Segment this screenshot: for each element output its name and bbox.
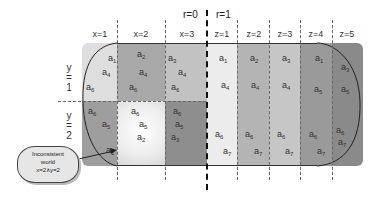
item-x1y2-a6: a6 [88,106,96,117]
header-x1: x=1 [80,29,120,39]
header-z5: z=5 [327,29,367,39]
divider-z3-z4 [300,20,301,180]
item-x2y1-a4: a4 [139,67,147,78]
item-z4-a6: a6 [309,129,317,140]
item-z5-a3: a3 [341,62,349,73]
row-label-y1-val: 1 [62,83,76,93]
item-z4-a1: a1 [315,53,323,64]
item-z2-a6: a6 [245,129,253,140]
item-z1-a6: a6 [215,129,223,140]
item-x2y2-a5: a5 [139,119,147,130]
item-z4-a5: a5 [314,84,322,95]
item-z1-a7: a7 [223,146,231,157]
region-bottom-border [117,165,317,166]
item-x1y1-a4: a4 [102,67,110,78]
item-z2-a7: a7 [254,146,262,157]
item-z3-a6: a6 [277,129,285,140]
item-z3-a7: a7 [285,146,293,157]
item-z5-a6: a6 [336,125,344,136]
item-z3-a4: a4 [282,80,290,91]
inconsistent-world-label: Inconsistent world x=2∧y=2 [17,150,79,174]
row-label-y1: y = 1 [62,63,76,93]
r0-label: r=0 [183,9,198,20]
header-x2: x=2 [121,29,161,39]
item-z5-a7: a7 [338,137,346,148]
item-x2y1-a6: a6 [129,82,137,93]
item-x1y1-a1: a1 [108,53,116,64]
item-x2y1-a2: a2 [137,49,145,60]
item-z3-a3: a3 [282,53,290,64]
item-z1-a4: a4 [221,80,229,91]
divider-z2-z3 [269,20,270,180]
item-x2y2-a6: a6 [131,106,139,117]
r-divider [206,10,208,190]
divider-z1-z2 [237,20,238,180]
item-x3y1-a3: a3 [168,53,176,64]
item-x1y1-a6: a6 [86,82,94,93]
header-x3: x=3 [167,29,207,39]
item-z1-a1: a1 [219,53,227,64]
item-x1y2-a5: a5 [102,119,110,130]
item-x2y2-a2: a2 [137,132,145,143]
callout-line3: x=2∧y=2 [17,166,79,174]
divider-y1-y2 [58,101,206,102]
item-z4-a7: a7 [317,146,325,157]
item-z2-a2: a2 [250,53,258,64]
divider-z4-z5 [332,20,333,180]
item-x3y2-a6: a6 [173,106,181,117]
divider-x2-x3 [165,20,166,180]
item-x3y2-a5: a5 [175,119,183,130]
region-top-border [117,43,317,44]
item-x3y1-a6: a6 [171,82,179,93]
item-z2-a4: a4 [251,80,259,91]
item-x3y2-a3: a3 [171,132,179,143]
callout-line2: world [17,158,79,166]
r1-label: r=1 [216,9,231,20]
item-x3y1-a4: a4 [178,67,186,78]
item-z5-a5: a5 [341,84,349,95]
callout-line1: Inconsistent [17,150,79,158]
